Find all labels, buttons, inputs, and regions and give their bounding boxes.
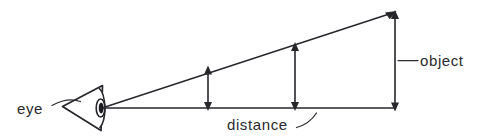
label-eye: eye bbox=[17, 101, 43, 116]
sight-ray-segment bbox=[104, 13, 392, 107]
label-distance: distance bbox=[227, 117, 288, 132]
sight-ray bbox=[104, 11, 397, 108]
visual-angle-diagram: eye distance object bbox=[0, 0, 491, 140]
arrow-up-icon bbox=[204, 66, 212, 75]
arrow-down-icon bbox=[291, 102, 299, 111]
near-object-height-arrow bbox=[204, 66, 212, 112]
distance-leader-line bbox=[297, 113, 317, 128]
eye-pupil bbox=[99, 103, 104, 114]
eye-cone-icon bbox=[63, 86, 106, 131]
mid-object-height-arrow bbox=[291, 42, 299, 111]
label-object: object bbox=[420, 53, 464, 68]
arrow-down-icon bbox=[391, 103, 399, 112]
arrow-down-icon bbox=[204, 102, 212, 111]
